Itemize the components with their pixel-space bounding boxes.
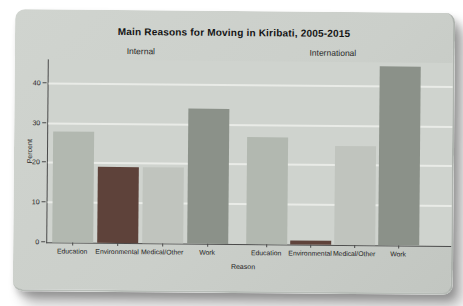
bar-international-medical-other: [334, 145, 376, 245]
x-tickmark: [398, 245, 399, 248]
x-tickmark: [354, 245, 355, 248]
chart-panel: Main Reasons for Moving in Kiribati, 200…: [13, 9, 455, 295]
chart-title: Main Reasons for Moving in Kiribati, 200…: [15, 25, 453, 40]
panel-label-internal: Internal: [81, 46, 201, 57]
plot-area: EducationEnvironmentalMedical/OtherWorkE…: [46, 59, 453, 247]
bar-international-work: [378, 66, 421, 245]
bar-internal-education: [52, 131, 94, 243]
y-ticklabel-10: 10: [32, 197, 40, 206]
y-tickmark-30: [42, 122, 46, 123]
bar-internal-environmental: [97, 167, 139, 243]
x-tickmark: [117, 243, 118, 246]
y-tickmark-40: [43, 82, 47, 83]
y-axis-ticks: 010203040: [13, 59, 48, 242]
x-tickmark: [266, 244, 267, 247]
bar-international-education: [246, 137, 288, 245]
panel-label-international: International: [273, 47, 393, 58]
x-ticklabel-work: Work: [362, 250, 434, 258]
x-tickmark: [162, 243, 163, 246]
x-tickmark: [207, 244, 208, 247]
bar-internal-work: [187, 108, 229, 244]
bar-internal-medical-other: [142, 168, 184, 244]
x-tickmark: [72, 243, 73, 246]
page-background: Main Reasons for Moving in Kiribati, 200…: [0, 0, 463, 306]
y-tickmark-10: [42, 202, 46, 203]
y-tickmark-20: [42, 162, 46, 163]
x-axis-title: Reason: [198, 263, 288, 271]
y-ticklabel-30: 30: [32, 118, 40, 127]
y-tickmark-0: [41, 241, 45, 242]
y-ticklabel-20: 20: [32, 158, 40, 167]
y-ticklabel-0: 0: [35, 237, 39, 246]
x-tickmark: [310, 245, 311, 248]
y-ticklabel-40: 40: [33, 78, 41, 87]
